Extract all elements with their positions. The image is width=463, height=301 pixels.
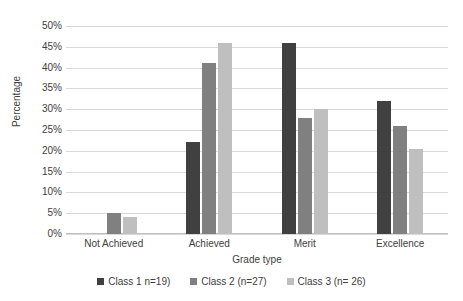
bar[interactable] (218, 43, 232, 234)
plot-area (66, 26, 448, 234)
legend-item[interactable]: Class 2 (n=27) (190, 276, 266, 287)
y-axis-tick-label: 30% (16, 104, 62, 114)
y-axis-tick-label: 35% (16, 83, 62, 93)
y-axis-tick-label: 10% (16, 187, 62, 197)
y-axis-tick-label: 0% (16, 229, 62, 239)
bar[interactable] (123, 217, 137, 234)
gridline (66, 234, 448, 235)
legend-item[interactable]: Class 1 n=19) (97, 276, 170, 287)
legend-label: Class 3 (n= 26) (298, 276, 366, 287)
legend-swatch-icon (190, 278, 197, 285)
bar-group (162, 26, 258, 234)
bar[interactable] (186, 142, 200, 234)
bar-group (257, 26, 353, 234)
bar[interactable] (409, 149, 423, 234)
legend-label: Class 1 n=19) (108, 276, 170, 287)
legend-item[interactable]: Class 3 (n= 26) (287, 276, 366, 287)
y-axis-tick-label: 40% (16, 63, 62, 73)
bar-chart: Percentage 0%5%10%15%20%25%30%35%40%45%5… (0, 0, 463, 301)
y-axis-tick-label: 20% (16, 146, 62, 156)
bar-groups (66, 26, 448, 234)
legend-swatch-icon (97, 278, 104, 285)
x-axis-tick-label: Merit (257, 238, 353, 249)
x-axis-tick-labels: Not AchievedAchievedMeritExcellence (66, 238, 448, 249)
legend: Class 1 n=19)Class 2 (n=27)Class 3 (n= 2… (0, 276, 463, 287)
bar[interactable] (107, 213, 121, 234)
bar[interactable] (202, 63, 216, 234)
x-axis-tick-label: Excellence (353, 238, 449, 249)
legend-swatch-icon (287, 278, 294, 285)
y-axis-tick-label: 15% (16, 167, 62, 177)
bar[interactable] (314, 109, 328, 234)
x-axis-tick-label: Achieved (162, 238, 258, 249)
bar[interactable] (298, 118, 312, 234)
y-axis-tick-label: 45% (16, 42, 62, 52)
y-axis-tick-label: 25% (16, 125, 62, 135)
bar[interactable] (393, 126, 407, 234)
y-axis-tick-label: 50% (16, 21, 62, 31)
x-axis-title: Grade type (66, 254, 448, 265)
y-axis-tick-labels: 0%5%10%15%20%25%30%35%40%45%50% (10, 26, 62, 234)
y-axis-tick-label: 5% (16, 208, 62, 218)
bar-group (66, 26, 162, 234)
bar[interactable] (282, 43, 296, 234)
legend-label: Class 2 (n=27) (201, 276, 266, 287)
x-axis-tick-label: Not Achieved (66, 238, 162, 249)
bar[interactable] (377, 101, 391, 234)
bar-group (353, 26, 449, 234)
